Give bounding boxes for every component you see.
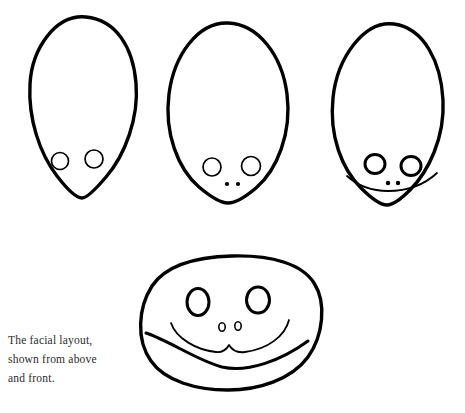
caption-text: The facial layout, shown from above and … [8,331,158,388]
nostril-right [396,181,400,185]
mouth-line [171,320,289,352]
eye-right [247,287,270,313]
eye-left [203,158,221,176]
eye-right [242,157,261,176]
eye-right [85,150,103,168]
nostril-left [225,182,229,186]
nostril-left [219,323,225,331]
head-outline [30,17,137,198]
head-outline [168,23,288,203]
eye-left [365,155,385,174]
figure-front-view [141,256,322,390]
eye-right [401,157,421,176]
figure-top-view-eyes-only [30,17,137,198]
eye-left [52,153,69,170]
nostril-right [236,182,240,186]
figure-top-view-with-muzzle [332,24,443,205]
eye-left [187,289,209,316]
nostril-right [235,322,241,330]
nostril-left [386,181,390,185]
figure-top-view-eyes-nostrils [168,23,288,203]
head-outline [141,256,322,390]
jaw-line [146,333,308,368]
